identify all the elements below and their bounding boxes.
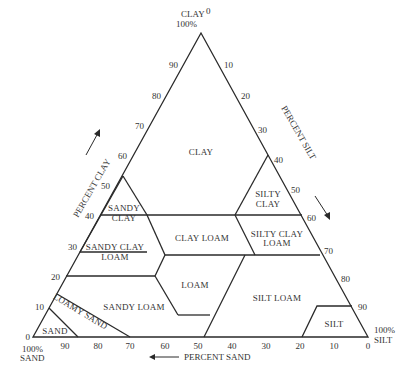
region-loam: LOAM bbox=[181, 280, 208, 290]
silt-tick-60: 60 bbox=[307, 213, 317, 223]
sand-tick-90: 90 bbox=[61, 341, 71, 351]
percent-clay-arrow bbox=[86, 129, 100, 155]
silt-tick-10: 10 bbox=[224, 60, 234, 70]
clay-tick-20: 20 bbox=[51, 272, 61, 282]
percent-silt-label: PERCENT SILT bbox=[279, 104, 318, 162]
sand-tick-20: 20 bbox=[296, 341, 306, 351]
clay-tick-80: 80 bbox=[152, 91, 162, 101]
clay-tick-90: 90 bbox=[169, 60, 179, 70]
silt-tick-20: 20 bbox=[241, 91, 251, 101]
vertex-sand-label: SAND bbox=[20, 353, 45, 363]
percent-sand-label: PERCENT SAND bbox=[184, 352, 251, 362]
silt-tick-50: 50 bbox=[291, 185, 301, 195]
sand-tick-70: 70 bbox=[126, 341, 136, 351]
region-silty-clay-2: CLAY bbox=[256, 199, 281, 209]
vertex-clay-pct: 100% bbox=[176, 19, 198, 29]
sand-tick-60: 60 bbox=[161, 341, 171, 351]
clay-tick-40: 40 bbox=[85, 211, 95, 221]
vertex-silt-label: SILT bbox=[374, 335, 393, 345]
region-sandy-clay-loam-2: LOAM bbox=[101, 252, 128, 262]
silt-tick-90: 90 bbox=[358, 302, 368, 312]
clay-tick-30: 30 bbox=[68, 242, 78, 252]
clay-tick-0: 0 bbox=[26, 332, 31, 342]
silt-tick-30: 30 bbox=[258, 125, 268, 135]
silt-tick-40: 40 bbox=[274, 155, 284, 165]
region-silt-loam: SILT LOAM bbox=[253, 293, 302, 303]
clay-tick-60: 60 bbox=[118, 151, 128, 161]
silt-tick-0: 0 bbox=[206, 6, 211, 16]
boundary-scl-right bbox=[147, 215, 165, 255]
silt-tick-80: 80 bbox=[341, 274, 351, 284]
sand-tick-50: 50 bbox=[194, 341, 204, 351]
boundary-loam-right bbox=[204, 255, 245, 337]
vertex-clay-label: CLAY bbox=[181, 9, 205, 19]
region-silt: SILT bbox=[325, 319, 344, 329]
sand-tick-30: 30 bbox=[262, 341, 272, 351]
sand-tick-80: 80 bbox=[94, 341, 104, 351]
region-clay-loam: CLAY LOAM bbox=[175, 233, 229, 243]
sand-tick-10: 10 bbox=[330, 341, 340, 351]
region-clay: CLAY bbox=[189, 147, 214, 157]
vertex-silt-pct: 100% bbox=[374, 325, 396, 335]
soil-texture-triangle: CLAY 100% 100% SAND 100% SILT 0 10 20 30… bbox=[0, 0, 413, 384]
boundary-scl-loam bbox=[155, 255, 165, 276]
region-sand: SAND bbox=[42, 326, 68, 336]
sand-tick-0: 0 bbox=[366, 341, 371, 351]
percent-sand-arrow bbox=[149, 354, 179, 360]
clay-tick-70: 70 bbox=[135, 121, 145, 131]
triangle-outline bbox=[33, 33, 368, 337]
clay-tick-10: 10 bbox=[35, 302, 45, 312]
clay-tick-50: 50 bbox=[101, 181, 111, 191]
region-sandy-clay-1: SANDY bbox=[108, 203, 140, 213]
region-silty-clay-loam-2: LOAM bbox=[263, 238, 290, 248]
silt-tick-70: 70 bbox=[324, 246, 334, 256]
sand-tick-40: 40 bbox=[228, 341, 238, 351]
region-sandy-clay-2: CLAY bbox=[112, 213, 137, 223]
region-sandy-clay-loam-1: SANDY CLAY bbox=[86, 242, 145, 252]
region-silty-clay-1: SILTY bbox=[255, 189, 281, 199]
percent-silt-arrow bbox=[315, 196, 330, 220]
region-sandy-loam: SANDY LOAM bbox=[103, 302, 164, 312]
